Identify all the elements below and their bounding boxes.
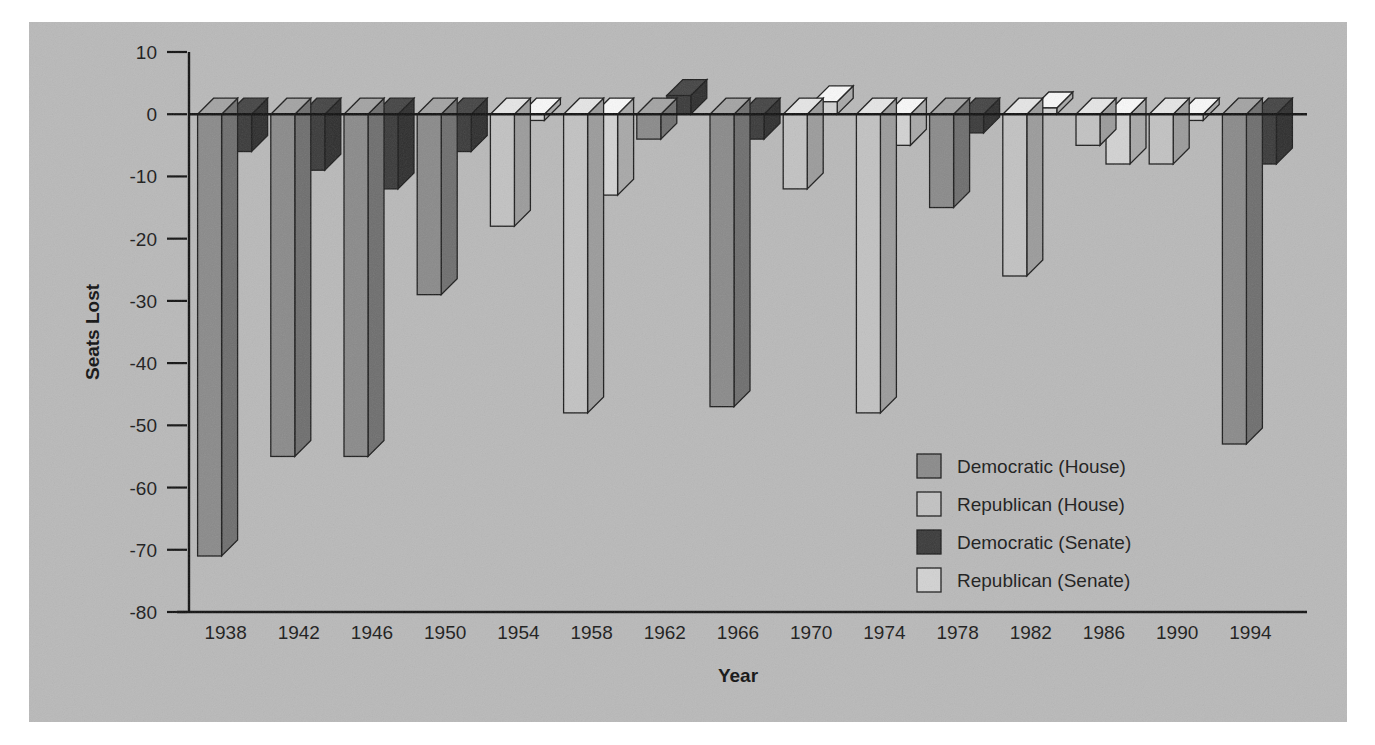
legend-swatch-2 xyxy=(917,530,941,554)
legend-label-3: Republican (Senate) xyxy=(957,570,1130,591)
legend-label-0: Democratic (House) xyxy=(957,456,1126,477)
y-tick-label--20: -20 xyxy=(130,229,157,250)
x-tick-label-1966: 1966 xyxy=(717,622,759,643)
bar-pair-1986 xyxy=(1076,98,1146,164)
legend: Democratic (House)Republican (House)Demo… xyxy=(917,454,1131,592)
x-tick-label-1954: 1954 xyxy=(497,622,540,643)
bar-1942-house-front xyxy=(271,114,295,456)
y-tick-label--80: -80 xyxy=(130,602,157,623)
x-tick-label-1946: 1946 xyxy=(351,622,393,643)
y-tick-label--40: -40 xyxy=(130,353,157,374)
x-tick-label-1982: 1982 xyxy=(1010,622,1052,643)
bar-pair-1954 xyxy=(490,98,560,226)
bar-1994-house-front xyxy=(1222,114,1246,444)
bar-1994-house-side xyxy=(1246,98,1262,444)
y-tick-label--60: -60 xyxy=(130,478,157,499)
bar-1958-house-front xyxy=(564,114,588,413)
bar-pair-1990 xyxy=(1149,98,1219,164)
bar-chart: 100-10-20-30-40-50-60-70-801938194219461… xyxy=(29,22,1347,722)
y-axis-title: Seats Lost xyxy=(82,283,103,380)
bar-1978-house-front xyxy=(930,114,954,207)
bar-pair-1974 xyxy=(856,98,926,413)
bar-pair-1946 xyxy=(344,98,414,456)
bar-pair-1950 xyxy=(417,98,487,294)
bar-pair-1994 xyxy=(1222,98,1292,444)
bar-1958-senate-side xyxy=(618,98,634,195)
bar-1958-house-side xyxy=(588,98,604,413)
bar-1950-house-side xyxy=(441,98,457,294)
x-tick-label-1978: 1978 xyxy=(936,622,978,643)
legend-swatch-0 xyxy=(917,454,941,478)
bar-1974-house-front xyxy=(856,114,880,413)
y-tick-label--30: -30 xyxy=(130,291,157,312)
bar-pair-1938 xyxy=(198,98,268,556)
legend-label-2: Democratic (Senate) xyxy=(957,532,1131,553)
bar-1950-house-front xyxy=(417,114,441,294)
bar-pair-1970 xyxy=(783,86,853,189)
x-tick-label-1942: 1942 xyxy=(278,622,320,643)
y-tick-label-0: 0 xyxy=(146,104,157,125)
bar-1938-house-side xyxy=(222,98,238,556)
x-tick-label-1970: 1970 xyxy=(790,622,832,643)
y-tick-label--50: -50 xyxy=(130,415,157,436)
x-tick-label-1950: 1950 xyxy=(424,622,466,643)
bar-1954-house-side xyxy=(514,98,530,226)
legend-swatch-3 xyxy=(917,568,941,592)
bar-pair-1982 xyxy=(1003,92,1073,276)
bar-1982-house-front xyxy=(1003,114,1027,276)
bar-pair-1966 xyxy=(710,98,780,406)
bar-1974-house-side xyxy=(880,98,896,413)
y-tick-label--10: -10 xyxy=(130,166,157,187)
x-tick-label-1938: 1938 xyxy=(204,622,246,643)
legend-label-1: Republican (House) xyxy=(957,494,1125,515)
x-tick-label-1958: 1958 xyxy=(570,622,612,643)
bar-1954-house-front xyxy=(490,114,514,226)
chart-panel: 100-10-20-30-40-50-60-70-801938194219461… xyxy=(29,22,1347,722)
bar-1986-house-front xyxy=(1076,114,1100,145)
y-tick-label--70: -70 xyxy=(130,540,157,561)
x-tick-label-1994: 1994 xyxy=(1229,622,1272,643)
bar-pair-1962 xyxy=(637,80,707,140)
bars-group xyxy=(198,80,1293,556)
bar-1942-house-side xyxy=(295,98,311,456)
bar-1938-house-front xyxy=(198,114,222,556)
bar-1946-house-side xyxy=(368,98,384,456)
figure-root: 100-10-20-30-40-50-60-70-801938194219461… xyxy=(0,0,1375,745)
x-axis-title: Year xyxy=(718,665,759,686)
y-tick-label-10: 10 xyxy=(136,42,157,63)
legend-swatch-1 xyxy=(917,492,941,516)
bar-1966-house-front xyxy=(710,114,734,406)
bar-1946-house-front xyxy=(344,114,368,456)
bar-1966-house-side xyxy=(734,98,750,406)
bar-1982-house-side xyxy=(1027,98,1043,276)
x-tick-label-1962: 1962 xyxy=(644,622,686,643)
bar-1990-house-front xyxy=(1149,114,1173,164)
bar-pair-1958 xyxy=(564,98,634,413)
bar-pair-1942 xyxy=(271,98,341,456)
x-tick-label-1974: 1974 xyxy=(863,622,906,643)
bar-1962-house-front xyxy=(637,114,661,139)
x-tick-label-1990: 1990 xyxy=(1156,622,1198,643)
x-tick-label-1986: 1986 xyxy=(1083,622,1125,643)
bar-1970-house-front xyxy=(783,114,807,189)
